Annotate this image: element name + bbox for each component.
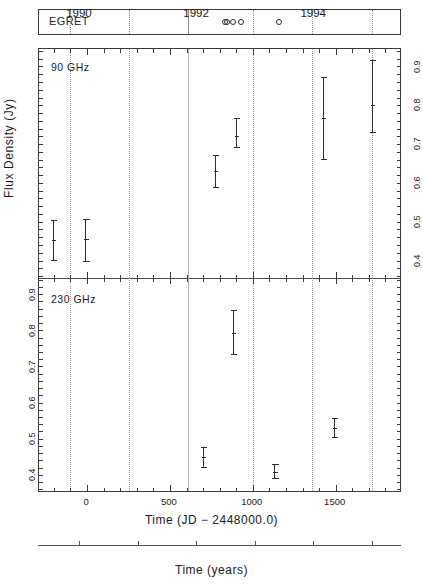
x-tick-top <box>70 49 71 53</box>
y-tick-right <box>397 129 401 130</box>
y-tick-left <box>39 160 43 161</box>
y-tick-right <box>397 352 401 353</box>
y-tick-left <box>39 453 43 454</box>
x-tick-top <box>369 49 370 53</box>
y-tick-right <box>397 489 401 490</box>
y-tick-right <box>397 366 401 367</box>
y-tick-left <box>39 489 43 490</box>
egret-divider <box>253 10 254 34</box>
y-tick-label: 0.8 <box>27 324 37 337</box>
gridline <box>129 49 130 278</box>
y-tick-right <box>397 167 401 168</box>
x-tick-divider-down <box>303 278 304 282</box>
x-tick-divider-down <box>236 278 237 282</box>
y-tick-right <box>397 468 401 469</box>
y-tick-right <box>397 136 401 137</box>
y-tick-left <box>39 330 43 331</box>
x-tick-top <box>352 49 353 53</box>
y-tick-right <box>397 276 401 277</box>
y-tick-right <box>397 482 401 483</box>
y-tick-left <box>39 276 43 277</box>
x-tick-divider-down <box>220 278 221 282</box>
x-tick-bottom <box>120 488 121 492</box>
y-tick-left <box>39 338 43 339</box>
y-tick-left <box>39 144 43 145</box>
y-tick-right <box>397 381 401 382</box>
y-tick-right <box>397 229 401 230</box>
gridline <box>253 49 254 278</box>
panel-230ghz: 230 GHz <box>39 278 400 491</box>
y-tick-right <box>397 90 401 91</box>
data-point-errorbar <box>53 220 54 261</box>
y-tick-left <box>39 198 43 199</box>
y-tick-right <box>397 323 401 324</box>
y-tick-right <box>397 144 401 145</box>
data-point-marker <box>52 240 56 241</box>
y-tick-right <box>397 431 401 432</box>
x-tick-bottom <box>54 488 55 492</box>
y-tick-left <box>39 191 43 192</box>
data-point-errorbar <box>203 447 204 469</box>
errorbar-cap <box>332 437 338 438</box>
y-tick-right <box>397 105 401 106</box>
y-tick-left <box>39 82 43 83</box>
x-tick-divider-down <box>187 278 188 282</box>
x-tick-divider-down <box>203 278 204 282</box>
figure-canvas: EGRET 90 GHz 230 GHz 0500100015000.40.50… <box>0 0 423 584</box>
y-tick-right <box>397 183 401 184</box>
y-tick-label: 0.9 <box>412 60 422 73</box>
gridline <box>253 278 254 491</box>
data-point-marker <box>232 333 236 334</box>
y-tick-left <box>39 129 43 130</box>
y-tick-left <box>39 410 43 411</box>
egret-detection-marker <box>230 19 236 25</box>
y-tick-left <box>39 245 43 246</box>
x-tick-bottom <box>170 485 171 491</box>
y-tick-label: 0.4 <box>412 254 422 267</box>
y-tick-right <box>397 253 401 254</box>
x-tick-bottom <box>303 488 304 492</box>
errorbar-cap <box>370 132 376 133</box>
data-point-marker <box>235 136 239 137</box>
year-tick <box>372 541 373 546</box>
data-point-marker <box>214 171 218 172</box>
x-tick-top <box>385 49 386 53</box>
plot-frame: 90 GHz 230 GHz <box>38 48 401 492</box>
y-tick-right <box>397 294 401 295</box>
x-tick-bottom <box>385 488 386 492</box>
y-tick-right <box>397 359 401 360</box>
data-point-marker <box>371 105 375 106</box>
panel-90ghz: 90 GHz <box>39 49 400 278</box>
x-tick-bottom <box>269 488 270 492</box>
y-tick-right <box>397 453 401 454</box>
y-tick-left <box>39 90 43 91</box>
x-tick-divider-down <box>120 278 121 282</box>
y-tick-right <box>397 330 401 331</box>
x-tick-divider-down <box>153 278 154 282</box>
errorbar-cap <box>201 467 207 468</box>
y-tick-right <box>397 287 401 288</box>
x-tick-bottom <box>286 488 287 492</box>
x-tick-bottom <box>336 485 337 491</box>
x-tick-top <box>120 49 121 53</box>
x-axis-label-jd: Time (JD − 2448000.0) <box>0 513 423 527</box>
x-tick-top <box>303 49 304 53</box>
y-tick-left <box>39 175 43 176</box>
y-tick-left <box>39 309 43 310</box>
year-tick <box>196 541 197 546</box>
errorbar-cap <box>51 260 57 261</box>
gridline <box>70 278 71 491</box>
y-tick-left <box>39 222 43 223</box>
y-tick-left <box>39 253 43 254</box>
x-tick-divider-down <box>253 278 254 284</box>
y-tick-right <box>397 345 401 346</box>
gridline <box>312 49 313 278</box>
year-tick <box>79 541 80 546</box>
y-tick-right <box>397 51 401 52</box>
y-tick-right <box>397 214 401 215</box>
x-tick-divider-down <box>54 278 55 282</box>
data-point-errorbar <box>215 155 216 188</box>
y-tick-right <box>397 113 401 114</box>
x-tick-label: 500 <box>149 496 189 507</box>
year-tick <box>255 541 256 546</box>
